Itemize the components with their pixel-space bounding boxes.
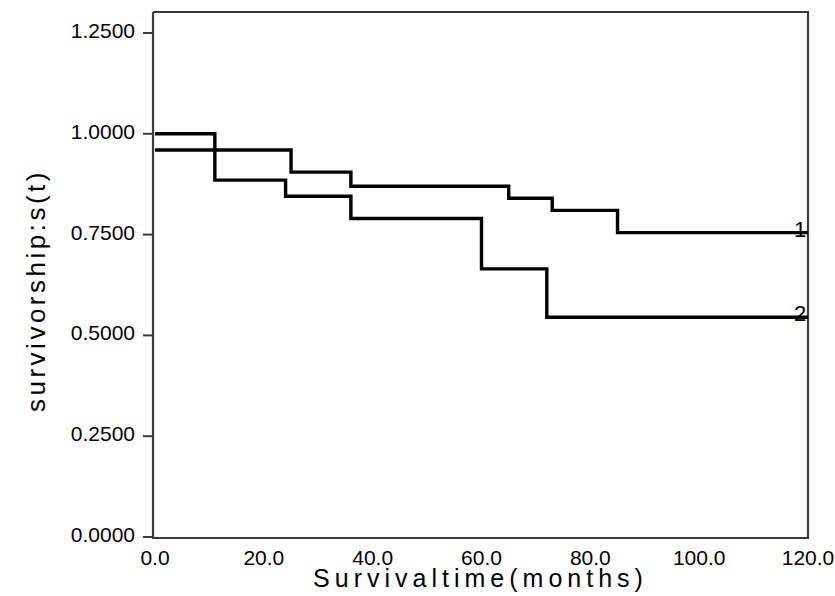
y-axis-tick-label: 1.0000 [25,120,135,144]
series-label-1: 1 [794,217,806,243]
plot-canvas [0,0,835,596]
x-axis-tick-label: 80.0 [530,546,650,570]
axis-spine [153,12,808,538]
y-axis-tick-label: 0.5000 [25,321,135,345]
x-axis-tick-label: 0.0 [95,546,215,570]
y-axis-tick-label: 1.2500 [25,19,135,43]
y-axis-tick-label: 0.2500 [25,422,135,446]
y-axis-tick-label: 0.0000 [25,523,135,547]
x-axis-tick-label: 100.0 [639,546,759,570]
x-axis-tick-label: 60.0 [422,546,542,570]
y-axis-tick-label: 0.7500 [25,221,135,245]
x-axis-tick-label: 120.0 [748,546,835,570]
x-axis-tick-label: 20.0 [204,546,324,570]
survival-curve-figure: survivorship:s(t) Survivaltime(months) 0… [0,0,835,596]
x-axis-tick-label: 40.0 [313,546,433,570]
series-label-2: 2 [794,301,806,327]
